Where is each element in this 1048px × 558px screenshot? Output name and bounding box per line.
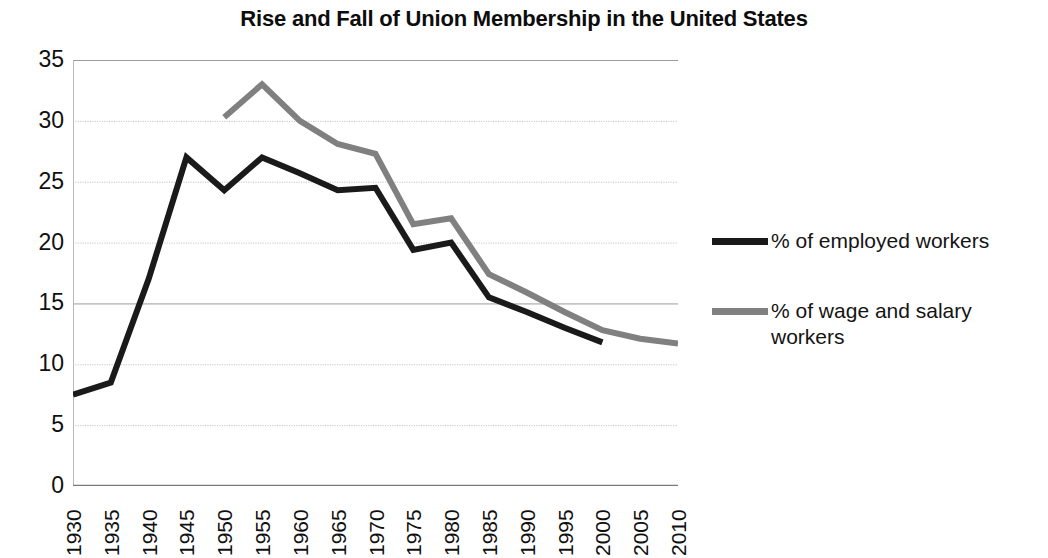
x-axis-tick-label: 2005 xyxy=(629,492,651,556)
plot-svg xyxy=(73,60,678,486)
y-axis-tick-label: 30 xyxy=(8,109,64,132)
chart-title: Rise and Fall of Union Membership in the… xyxy=(0,6,1048,32)
x-axis-tick-label: 1945 xyxy=(175,492,197,556)
x-axis-tick-label: 1940 xyxy=(138,492,160,556)
x-axis-tick-label: 1975 xyxy=(402,492,424,556)
chart-legend: % of employed workers% of wage and salar… xyxy=(712,228,1042,394)
series-lines xyxy=(73,84,678,394)
legend-line-swatch xyxy=(712,308,768,315)
legend-line-swatch xyxy=(712,238,768,245)
legend-label: % of employed workers xyxy=(771,228,989,254)
x-axis-tick-label: 1960 xyxy=(289,492,311,556)
x-axis-tick-label: 1950 xyxy=(213,492,235,556)
y-axis: 35302520151050 xyxy=(0,0,64,558)
y-axis-tick-label: 10 xyxy=(8,352,64,375)
y-axis-tick-label: 0 xyxy=(8,474,64,497)
x-axis-tick-label: 1990 xyxy=(516,492,538,556)
x-axis-tick-label: 1970 xyxy=(365,492,387,556)
y-axis-tick-label: 5 xyxy=(8,413,64,436)
x-axis-tick-label: 1930 xyxy=(62,492,84,556)
x-axis: 1930193519401945195019551960196519701975… xyxy=(73,492,678,558)
plot-area xyxy=(73,60,678,486)
x-axis-tick-label: 1980 xyxy=(440,492,462,556)
y-axis-tick-label: 20 xyxy=(8,231,64,254)
x-axis-tick-label: 1965 xyxy=(327,492,349,556)
chart-container: Rise and Fall of Union Membership in the… xyxy=(0,0,1048,558)
series-line-2 xyxy=(224,84,678,343)
x-axis-tick-label: 1935 xyxy=(100,492,122,556)
x-axis-tick-label: 1995 xyxy=(554,492,576,556)
y-axis-tick-label: 35 xyxy=(8,48,64,71)
legend-item[interactable]: % of wage and salary workers xyxy=(712,298,1042,350)
x-axis-tick-label: 2000 xyxy=(591,492,613,556)
y-axis-tick-label: 15 xyxy=(8,291,64,314)
axis-frame xyxy=(73,60,678,486)
legend-label: % of wage and salary workers xyxy=(771,298,1033,350)
gridlines xyxy=(73,61,678,426)
x-axis-tick-label: 2010 xyxy=(667,492,689,556)
y-axis-tick-label: 25 xyxy=(8,170,64,193)
x-axis-tick-label: 1955 xyxy=(251,492,273,556)
legend-item[interactable]: % of employed workers xyxy=(712,228,1042,254)
series-line-1 xyxy=(73,157,602,394)
x-axis-tick-label: 1985 xyxy=(478,492,500,556)
